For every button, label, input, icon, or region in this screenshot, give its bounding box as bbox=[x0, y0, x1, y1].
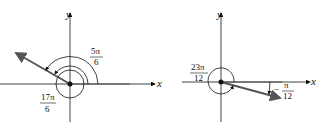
label-23pi-12-den: 12 bbox=[194, 73, 203, 83]
label-17pi-6-den: 6 bbox=[45, 104, 50, 114]
terminal-side bbox=[221, 82, 280, 98]
x-axis-label: x bbox=[310, 75, 316, 87]
label-23pi-12-num: 23π bbox=[191, 62, 205, 72]
coterminal-angles-figure: y x 5π 6 17π 6 y x 23π 12 − π bbox=[0, 0, 322, 130]
origin-point bbox=[68, 82, 73, 87]
label-17pi-6-num: 17π bbox=[41, 92, 55, 102]
label-neg-pi-12-den: 12 bbox=[283, 91, 292, 101]
arc-17pi-6 bbox=[55, 66, 88, 84]
left-diagram: y x 5π 6 17π 6 bbox=[0, 8, 162, 122]
label-5pi-6-num: 5π bbox=[91, 46, 101, 56]
y-axis-label: y bbox=[216, 8, 222, 20]
label-5pi-6: 5π 6 bbox=[90, 46, 103, 67]
x-axis-label: x bbox=[156, 77, 162, 89]
label-17pi-6: 17π 6 bbox=[40, 92, 56, 114]
label-neg-pi-12-sign: − bbox=[274, 84, 279, 94]
origin-point bbox=[219, 80, 224, 85]
y-axis-label: y bbox=[65, 8, 71, 20]
label-23pi-12: 23π 12 bbox=[190, 62, 208, 83]
label-neg-pi-12-num: π bbox=[284, 80, 289, 90]
arc-neg-pi-12 bbox=[269, 82, 270, 94]
label-5pi-6-den: 6 bbox=[94, 57, 99, 67]
right-diagram: y x 23π 12 − π 12 bbox=[182, 8, 316, 122]
